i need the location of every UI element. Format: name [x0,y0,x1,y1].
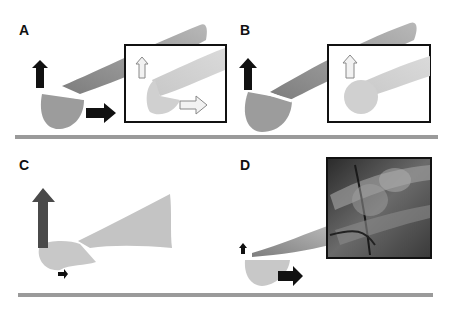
ground-line-top [15,135,438,139]
inset-b [328,45,430,122]
inset-a [125,45,226,122]
arrow-up-icon [32,60,48,88]
radiograph-inset [327,158,431,258]
panel-b [239,22,430,132]
bone-head [41,94,84,129]
arrow-up-large-icon [32,188,55,248]
panel-c [32,188,172,279]
bone-shaft-angled [78,194,172,248]
arrow-up-small-icon [239,243,247,254]
fracture-diagram [0,0,453,309]
panel-d [239,158,431,286]
panel-a [32,24,226,129]
bone-shaft [252,225,330,257]
arrow-up-icon [239,58,257,90]
ground-line-bottom [18,293,433,297]
arrow-right-icon [86,103,116,123]
arrow-right-small-icon [58,269,68,279]
